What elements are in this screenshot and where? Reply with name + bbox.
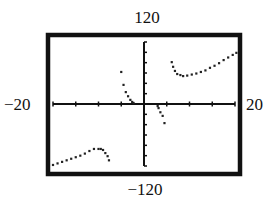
data-point (209, 67, 211, 69)
data-point (171, 61, 173, 63)
data-point (100, 148, 102, 150)
data-point (127, 95, 129, 97)
data-point (61, 161, 63, 163)
data-point (122, 84, 124, 86)
data-point (162, 115, 164, 117)
data-point (232, 54, 234, 56)
data-point (227, 56, 229, 58)
data-point (108, 159, 110, 161)
data-point (172, 66, 174, 68)
data-point (97, 148, 99, 150)
data-point (159, 111, 161, 113)
data-point (79, 155, 81, 157)
data-point (125, 91, 127, 93)
data-point (56, 162, 58, 164)
data-point (182, 75, 184, 77)
data-point (218, 62, 220, 64)
data-point (88, 150, 90, 152)
data-point (84, 153, 86, 155)
data-point (75, 156, 77, 158)
data-point (157, 105, 159, 107)
data-point (163, 122, 165, 124)
data-point (107, 155, 109, 157)
data-point (235, 52, 237, 54)
data-point (52, 164, 54, 166)
data-point (120, 71, 122, 73)
data-point (204, 69, 206, 71)
data-point (66, 159, 68, 161)
data-point (70, 158, 72, 160)
data-point (186, 74, 188, 76)
data-point (102, 149, 104, 151)
data-point (93, 148, 95, 150)
data-point (179, 74, 181, 76)
data-point (191, 73, 193, 75)
data-point (157, 107, 159, 109)
data-point (104, 152, 106, 154)
data-point (176, 73, 178, 75)
data-point (129, 99, 131, 101)
data-point (174, 70, 176, 72)
data-point (195, 72, 197, 74)
data-point (223, 59, 225, 61)
graph-screen (0, 0, 269, 199)
data-point (200, 71, 202, 73)
data-point (132, 102, 134, 104)
data-point (213, 65, 215, 67)
